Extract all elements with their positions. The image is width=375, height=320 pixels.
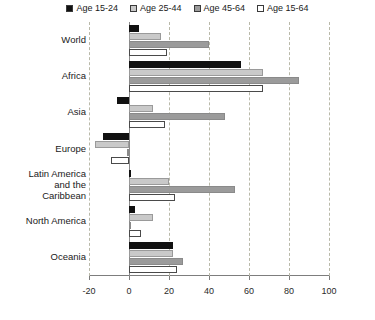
bar[interactable] xyxy=(129,170,131,177)
legend-label: Age 45-64 xyxy=(204,4,246,13)
bar-group xyxy=(89,240,329,276)
legend-swatch-icon xyxy=(257,5,264,12)
bar[interactable] xyxy=(129,230,141,237)
bar[interactable] xyxy=(129,186,235,193)
bar[interactable] xyxy=(129,61,241,68)
x-tick-mark xyxy=(249,276,250,280)
bar[interactable] xyxy=(129,25,139,32)
x-tick-label: 60 xyxy=(244,286,254,296)
bar[interactable] xyxy=(129,85,263,92)
category-label-line: Oceania xyxy=(51,251,86,262)
legend-item[interactable]: Age 15-64 xyxy=(257,4,309,13)
category-label: North America xyxy=(0,216,86,227)
category-label: World xyxy=(0,35,86,46)
bar[interactable] xyxy=(111,157,129,164)
x-tick-mark xyxy=(329,276,330,280)
bar[interactable] xyxy=(129,113,225,120)
legend-item[interactable]: Age 15-24 xyxy=(66,4,118,13)
bar[interactable] xyxy=(129,178,169,185)
legend-swatch-icon xyxy=(194,5,201,12)
bar[interactable] xyxy=(129,214,153,221)
plot-area: -20020406080100 xyxy=(89,22,329,290)
category-label: Europe xyxy=(0,144,86,155)
bar-group xyxy=(89,167,329,203)
bar[interactable] xyxy=(129,33,161,40)
category-label-line: Caribbean xyxy=(42,190,86,201)
category-label-line: Asia xyxy=(68,106,86,117)
bar[interactable] xyxy=(129,222,131,229)
x-tick-mark xyxy=(289,276,290,280)
bar[interactable] xyxy=(129,77,299,84)
x-tick-label: 80 xyxy=(284,286,294,296)
legend-item[interactable]: Age 45-64 xyxy=(194,4,246,13)
bar[interactable] xyxy=(129,266,177,273)
bar[interactable] xyxy=(95,141,129,148)
bar[interactable] xyxy=(129,194,175,201)
legend-item[interactable]: Age 25-44 xyxy=(130,4,182,13)
category-axis-labels: WorldAfricaAsiaEuropeLatin Americaand th… xyxy=(0,22,86,290)
bar[interactable] xyxy=(127,149,129,156)
bar[interactable] xyxy=(129,121,165,128)
bar-group xyxy=(89,22,329,58)
x-tick-label: 0 xyxy=(126,286,131,296)
legend-label: Age 25-44 xyxy=(140,4,182,13)
legend-swatch-icon xyxy=(130,5,137,12)
category-label: Africa xyxy=(0,71,86,82)
bar[interactable] xyxy=(129,105,153,112)
category-label-line: Latin America xyxy=(28,168,86,179)
bar[interactable] xyxy=(129,258,183,265)
category-label: Oceania xyxy=(0,252,86,263)
legend-swatch-icon xyxy=(66,5,73,12)
legend-label: Age 15-24 xyxy=(76,4,118,13)
x-tick-label: 20 xyxy=(164,286,174,296)
category-label-line: Europe xyxy=(55,143,86,154)
x-tick-mark xyxy=(129,276,130,280)
bar-group xyxy=(89,131,329,167)
bar[interactable] xyxy=(129,69,263,76)
bar[interactable] xyxy=(129,41,209,48)
x-tick-mark xyxy=(209,276,210,280)
bar[interactable] xyxy=(117,97,129,104)
x-tick-label: 100 xyxy=(321,286,336,296)
chart-legend: Age 15-24Age 25-44Age 45-64Age 15-64 xyxy=(0,4,375,13)
x-tick-label: -20 xyxy=(82,286,95,296)
category-label: Latin Americaand theCaribbean xyxy=(0,169,86,202)
category-label: Asia xyxy=(0,107,86,118)
bar[interactable] xyxy=(129,242,173,249)
legend-label: Age 15-64 xyxy=(267,4,309,13)
x-tick-mark xyxy=(169,276,170,280)
x-tick-label: 40 xyxy=(204,286,214,296)
bar-group xyxy=(89,58,329,94)
x-tick-mark xyxy=(89,276,90,280)
bar-group xyxy=(89,95,329,131)
category-label-line: Africa xyxy=(62,70,86,81)
bar[interactable] xyxy=(129,49,167,56)
gridline xyxy=(329,22,330,276)
category-label-line: and the xyxy=(54,179,86,190)
bar-group xyxy=(89,203,329,239)
bar-chart: Age 15-24Age 25-44Age 45-64Age 15-64 Wor… xyxy=(0,0,375,320)
bar[interactable] xyxy=(129,250,173,257)
bar[interactable] xyxy=(103,133,129,140)
category-label-line: North America xyxy=(26,215,86,226)
bar[interactable] xyxy=(129,206,135,213)
category-label-line: World xyxy=(61,34,86,45)
